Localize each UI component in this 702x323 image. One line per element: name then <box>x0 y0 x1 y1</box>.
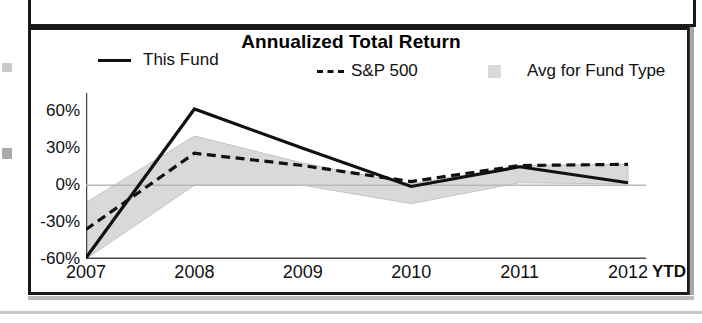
x-axis-labels: 200720082009201020112012 <box>86 262 686 288</box>
page-edge-line <box>0 311 702 314</box>
x-axis-tick-label: 2008 <box>174 262 214 283</box>
chart-legend: This Fund S&P 500 Avg for Fund Type <box>40 50 690 78</box>
y-axis-tick-label: 60% <box>46 101 80 121</box>
x-axis-tick-label: 2009 <box>283 262 323 283</box>
legend-item-sp500: S&P 500 <box>317 61 418 81</box>
y-axis-tick-label: 30% <box>46 138 80 158</box>
y-axis-tick-label: 0% <box>55 175 80 195</box>
y-axis-tick-label: -30% <box>40 212 80 232</box>
plot-area <box>86 93 646 259</box>
scan-edge-bottom <box>28 296 694 300</box>
legend-item-avg-fund-type: Avg for Fund Type <box>488 61 665 81</box>
legend-label-sp500: S&P 500 <box>351 61 418 81</box>
screenshot-root: Annualized Total Return This Fund S&P 50… <box>0 0 702 323</box>
x-axis-tick-label: 2010 <box>391 262 431 283</box>
x-axis-ytd-note: YTD <box>652 262 686 282</box>
panel-above-chart <box>28 0 696 27</box>
legend-item-this-fund: This Fund <box>98 50 219 70</box>
margin-text-fragment <box>2 148 12 159</box>
dashed-line-swatch-icon <box>317 70 344 73</box>
chart-svg <box>86 93 646 259</box>
gray-area-swatch-icon <box>488 65 501 78</box>
x-axis-tick-label: 2011 <box>500 262 539 283</box>
legend-label-this-fund: This Fund <box>143 50 219 70</box>
solid-line-swatch-icon <box>98 59 131 62</box>
x-axis-tick-label: 2007 <box>66 262 106 283</box>
x-axis-tick-label: 2012 <box>608 262 648 283</box>
margin-text-fragment <box>2 63 12 72</box>
y-axis-labels: 60%30%0%-30%-60% <box>30 93 80 259</box>
legend-label-avg-fund-type: Avg for Fund Type <box>527 61 665 81</box>
avg-fund-type-band <box>86 136 628 259</box>
